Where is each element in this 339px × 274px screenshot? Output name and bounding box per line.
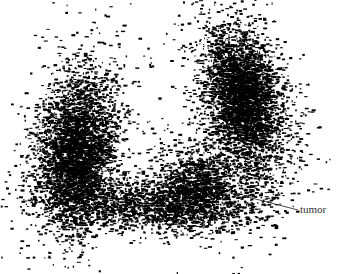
density-plot: tumor xyxy=(0,0,339,274)
tumor-label: tumor xyxy=(300,203,327,215)
scatter-density-figure: tumor xyxy=(0,0,339,274)
